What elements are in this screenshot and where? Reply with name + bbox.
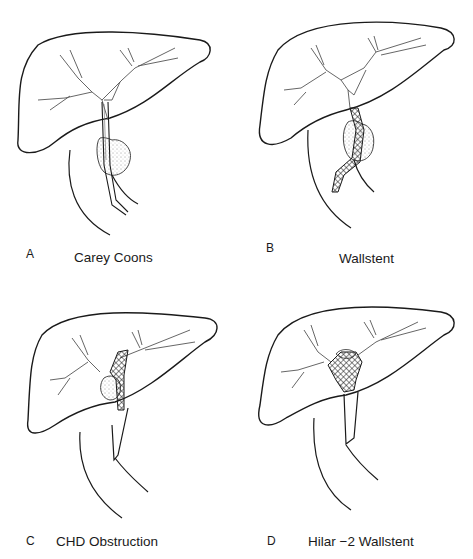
panel-caption-c: CHD Obstruction	[56, 534, 158, 549]
panel-caption-b: Wallstent	[339, 251, 394, 266]
panel-letter-a: A	[26, 247, 34, 261]
liver-illustration-d	[236, 280, 473, 520]
panel-a: A Carey Coons	[0, 0, 236, 280]
panel-b: B Wallstent	[236, 0, 472, 280]
liver-illustration-c	[0, 280, 236, 520]
panel-d: D Hilar −2 Wallstent	[236, 280, 472, 559]
panel-letter-b: B	[266, 241, 274, 255]
panel-letter-c: C	[26, 534, 35, 548]
panel-c: C CHD Obstruction	[0, 280, 236, 559]
liver-illustration-a	[0, 0, 236, 240]
panel-caption-a: Carey Coons	[74, 250, 153, 265]
panel-caption-d: Hilar −2 Wallstent	[308, 534, 414, 549]
liver-illustration-b	[236, 0, 473, 240]
panel-letter-d: D	[267, 534, 276, 548]
